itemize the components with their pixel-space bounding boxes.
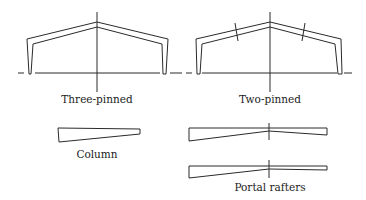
- portal-rafter-2: [189, 160, 327, 178]
- portal-rafter-2-outline: [189, 166, 327, 178]
- portal-rafter-1-outline: [189, 128, 327, 141]
- portal-rafters-label: Portal rafters: [234, 181, 305, 193]
- column-member: [58, 128, 140, 142]
- two-pinned-outer-outline: [196, 22, 342, 74]
- three-pinned-frame: [18, 12, 182, 92]
- three-pinned-label: Three-pinned: [61, 93, 133, 105]
- portal-frames-diagram: Three-pinned Two-pinned Column Portal ra…: [0, 0, 366, 200]
- two-pinned-left-splice: [235, 23, 238, 41]
- column-label: Column: [76, 148, 117, 160]
- portal-rafter-1: [189, 123, 327, 141]
- two-pinned-right-splice: [302, 23, 305, 41]
- two-pinned-inner-outline: [200, 27, 338, 74]
- two-pinned-frame: [186, 12, 352, 92]
- two-pinned-label: Two-pinned: [239, 93, 301, 105]
